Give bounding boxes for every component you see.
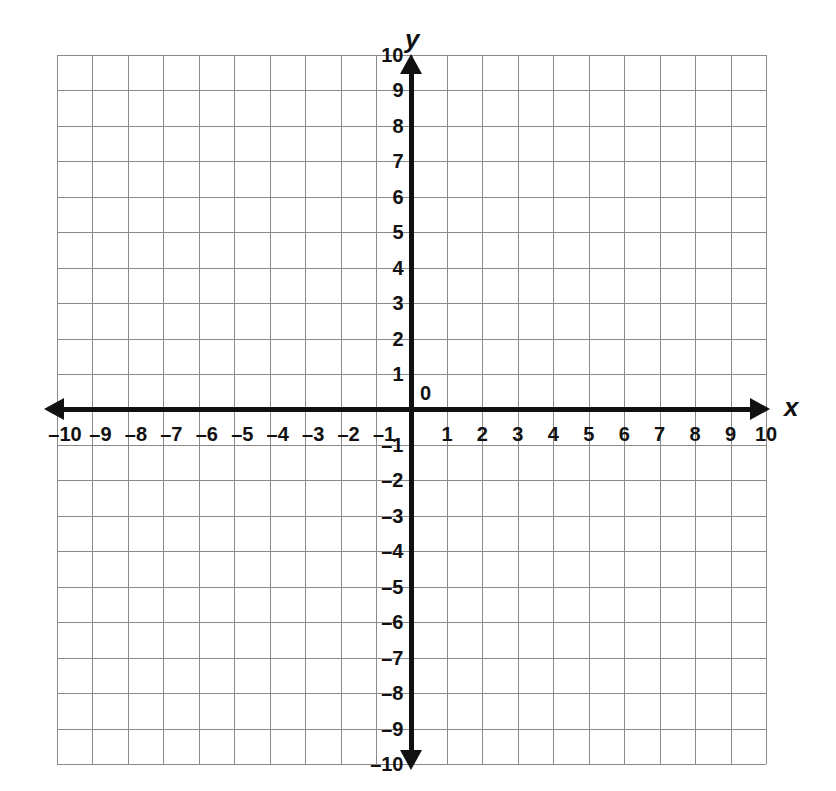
y-tick-label: –6 [356, 612, 404, 632]
x-tick-label: 1 [441, 424, 452, 444]
x-tick-label: 2 [477, 424, 488, 444]
y-tick-label: 7 [364, 151, 404, 171]
x-tick-label: 4 [548, 424, 559, 444]
y-tick-label: 10 [364, 45, 404, 65]
x-tick-label: 5 [583, 424, 594, 444]
y-tick-label: –3 [356, 506, 404, 526]
y-tick-label: 8 [364, 116, 404, 136]
x-axis-arrow-right-icon [750, 398, 770, 420]
y-tick-label: –8 [356, 683, 404, 703]
y-tick-label: –9 [356, 719, 404, 739]
y-tick-label: 5 [364, 222, 404, 242]
x-tick-label: –7 [160, 424, 182, 444]
y-tick-label: 2 [364, 329, 404, 349]
y-tick-label: 4 [364, 258, 404, 278]
y-tick-label: 6 [364, 187, 404, 207]
x-tick-label: –8 [125, 424, 147, 444]
y-tick-label: 3 [364, 293, 404, 313]
x-tick-label: 9 [725, 424, 736, 444]
x-tick-label: 8 [690, 424, 701, 444]
x-tick-label: 3 [512, 424, 523, 444]
x-tick-label: –4 [267, 424, 289, 444]
x-tick-label: –9 [89, 424, 111, 444]
x-tick-label: –3 [302, 424, 324, 444]
coordinate-plane-figure: –10–9–8–7–6–5–4–3–2–11234567891012345678… [0, 0, 836, 791]
y-tick-label: 1 [364, 364, 404, 384]
y-axis-name: y [405, 26, 419, 52]
y-tick-label: –2 [356, 470, 404, 490]
x-axis-line [62, 407, 752, 412]
x-axis-arrow-left-icon [44, 398, 64, 420]
axes [0, 0, 836, 791]
y-tick-label: –5 [356, 577, 404, 597]
y-tick-label: 9 [364, 80, 404, 100]
x-axis-name: x [784, 394, 798, 420]
origin-label: 0 [420, 383, 431, 403]
x-tick-label: 7 [654, 424, 665, 444]
x-tick-label: –5 [231, 424, 253, 444]
y-tick-label: –1 [356, 435, 404, 455]
y-tick-label: –4 [356, 541, 404, 561]
y-tick-label: –10 [356, 754, 404, 774]
x-tick-label: –6 [196, 424, 218, 444]
y-tick-label: –7 [356, 648, 404, 668]
x-tick-label: 10 [755, 424, 777, 444]
y-axis-line [409, 72, 414, 752]
x-tick-label: –10 [48, 424, 81, 444]
x-tick-label: 6 [619, 424, 630, 444]
